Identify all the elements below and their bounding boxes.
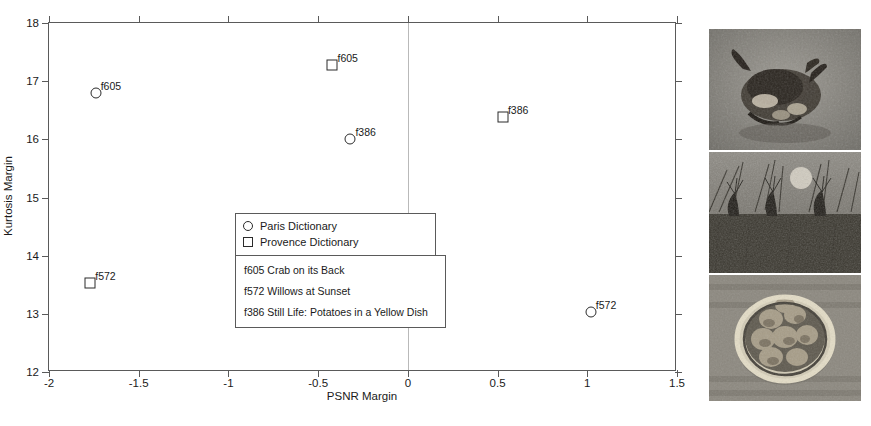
x-axis-tick — [677, 16, 678, 23]
x-axis-tick-label: 1 — [584, 377, 590, 389]
figure-page: Kurtosis Margin PSNR Margin 121314151617… — [0, 0, 871, 426]
x-axis-tick — [139, 16, 140, 23]
x-axis-tick — [587, 16, 588, 23]
willows-at-sunset-thumbnail — [709, 152, 861, 273]
y-axis-label: Kurtosis Margin — [2, 156, 14, 236]
y-axis-tick-label: 17 — [26, 75, 39, 87]
x-axis-tick — [677, 370, 678, 377]
data-point-label: f605 — [101, 80, 121, 92]
x-axis-tick — [228, 370, 229, 377]
x-axis-tick — [498, 370, 499, 377]
caption-line: f572 Willows at Sunset — [244, 284, 437, 299]
x-axis-label: PSNR Margin — [327, 390, 397, 402]
potatoes-painting-image — [709, 275, 861, 401]
x-axis-tick — [49, 16, 50, 23]
x-axis-tick-label: -1 — [223, 377, 233, 389]
circle-marker-icon — [345, 134, 356, 145]
x-axis-tick — [318, 370, 319, 377]
caption-box: f605 Crab on its Back f572 Willows at Su… — [235, 255, 446, 328]
y-axis-tick — [675, 23, 682, 24]
legend-label: Paris Dictionary — [260, 221, 337, 232]
scatter-figure: Kurtosis Margin PSNR Margin 121314151617… — [0, 0, 690, 426]
y-axis-tick — [675, 81, 682, 82]
y-axis-tick — [675, 256, 682, 257]
x-axis-tick — [408, 370, 409, 377]
y-axis-tick — [675, 198, 682, 199]
y-axis-tick-label: 12 — [26, 366, 39, 378]
square-marker-icon — [85, 278, 96, 289]
legend: Paris Dictionary Provence Dictionary — [235, 213, 436, 256]
square-marker-icon — [327, 59, 338, 70]
x-axis-tick — [228, 16, 229, 23]
x-axis-tick — [498, 16, 499, 23]
x-axis-tick-label: -0.5 — [308, 377, 328, 389]
y-axis-tick — [675, 314, 682, 315]
data-point-label: f572 — [596, 299, 616, 311]
legend-entry-provence: Provence Dictionary — [243, 234, 428, 250]
x-axis-tick — [49, 370, 50, 377]
y-axis-tick — [42, 314, 49, 315]
caption-line: f605 Crab on its Back — [244, 263, 437, 278]
square-marker-icon — [243, 237, 253, 247]
legend-entry-paris: Paris Dictionary — [243, 218, 428, 234]
legend-label: Provence Dictionary — [260, 237, 358, 248]
y-axis-tick — [42, 256, 49, 257]
y-axis-tick — [675, 139, 682, 140]
caption-line: f386 Still Life: Potatoes in a Yellow Di… — [244, 305, 437, 320]
y-axis-tick-label: 13 — [26, 308, 39, 320]
square-marker-icon — [497, 112, 508, 123]
y-axis-tick-label: 15 — [26, 192, 39, 204]
y-axis-tick-label: 16 — [26, 133, 39, 145]
data-point-label: f605 — [337, 52, 357, 64]
y-axis-tick — [42, 23, 49, 24]
x-axis-tick — [318, 16, 319, 23]
x-axis-tick — [139, 370, 140, 377]
y-axis-tick — [42, 198, 49, 199]
circle-marker-icon — [90, 87, 101, 98]
circle-marker-icon — [585, 307, 596, 318]
y-axis-tick-label: 14 — [26, 250, 39, 262]
x-axis-tick-label: 0.5 — [490, 377, 506, 389]
crab-on-its-back-thumbnail — [709, 29, 861, 150]
data-point-label: f386 — [508, 104, 528, 116]
y-axis-tick — [42, 372, 49, 373]
y-axis-tick-label: 18 — [26, 17, 39, 29]
potatoes-in-a-yellow-dish-thumbnail — [709, 275, 861, 401]
x-axis-tick-label: -1.5 — [129, 377, 149, 389]
circle-marker-icon — [243, 221, 253, 231]
x-axis-tick-label: -2 — [44, 377, 54, 389]
data-point-label: f572 — [95, 270, 115, 282]
willows-painting-image — [709, 152, 861, 273]
thumbnail-strip — [709, 29, 861, 401]
plot-area: 12131415161718 -2-1.5-1-0.500.511.5 f605… — [48, 22, 676, 371]
x-axis-tick-label: 1.5 — [669, 377, 685, 389]
y-axis-tick — [42, 139, 49, 140]
y-axis-tick — [42, 81, 49, 82]
x-axis-tick — [587, 370, 588, 377]
x-axis-tick — [408, 16, 409, 23]
data-point-label: f386 — [355, 126, 375, 138]
x-axis-tick-label: 0 — [405, 377, 411, 389]
crab-painting-image — [709, 29, 861, 150]
